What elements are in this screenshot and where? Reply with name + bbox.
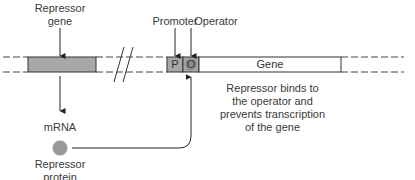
annotation-line1: Repressor binds to <box>210 82 335 95</box>
repressor-gene-box <box>28 57 96 72</box>
label-repressor-gene: Repressor gene <box>30 2 90 28</box>
repressor-protein-icon <box>53 141 68 156</box>
break-marks <box>114 47 133 82</box>
annotation-text: Repressor binds to the operator and prev… <box>210 82 335 134</box>
annotation-line3: prevents transcription <box>210 108 335 121</box>
label-repressor-gene-line2: gene <box>30 15 90 28</box>
label-gene: Gene <box>199 58 341 71</box>
label-mrna: mRNA <box>30 121 90 134</box>
label-repressor-protein: Repressor protein <box>30 158 90 180</box>
annotation-line2: the operator and <box>210 95 335 108</box>
label-o-box: O <box>183 58 199 71</box>
label-repressor-protein-line2: protein <box>30 171 90 180</box>
arrow-protein-to-operator <box>72 77 191 148</box>
label-repressor-gene-line1: Repressor <box>30 2 90 15</box>
label-operator: Operator <box>186 15 246 28</box>
annotation-line4: of the gene <box>210 121 335 134</box>
label-p-box: P <box>167 58 183 71</box>
label-repressor-protein-line1: Repressor <box>30 158 90 171</box>
